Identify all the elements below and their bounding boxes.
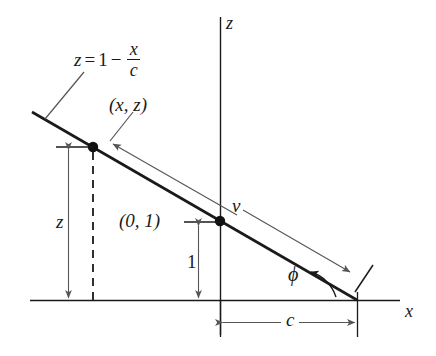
equation-minus: − bbox=[111, 49, 122, 71]
one-dimension-label: 1 bbox=[187, 252, 197, 271]
c-dimension-label: c bbox=[281, 310, 299, 329]
point-xz-leader-line bbox=[110, 112, 133, 141]
point-0-1-label: (0, 1) bbox=[119, 211, 160, 230]
equation-one: 1 bbox=[98, 49, 108, 71]
angle-label: ϕ bbox=[288, 264, 298, 284]
fraction-denominator: c bbox=[128, 60, 140, 79]
velocity-end-tick bbox=[355, 265, 373, 292]
point-0-1-marker bbox=[215, 216, 225, 226]
x-axis-label: x bbox=[405, 302, 413, 320]
point-xz-label: (x, z) bbox=[109, 95, 147, 114]
velocity-label: v bbox=[232, 196, 240, 215]
fraction-numerator: x bbox=[128, 40, 140, 59]
equation-label: z = 1 − x c bbox=[74, 40, 140, 79]
z-dimension-label: z bbox=[56, 212, 63, 231]
equation-fraction: x c bbox=[127, 40, 140, 79]
figure-canvas: z = 1 − x c (x, z) (0, 1) v ϕ z 1 c z x bbox=[0, 0, 436, 356]
diagram-svg bbox=[0, 0, 436, 356]
z-axis-label: z bbox=[226, 14, 233, 32]
point-xz-arrow bbox=[113, 144, 237, 215]
equation-lhs: z bbox=[74, 49, 81, 71]
equation-equals: = bbox=[84, 49, 95, 71]
